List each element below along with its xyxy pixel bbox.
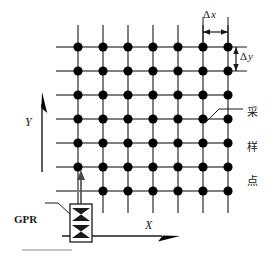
sampling-point [173,138,182,147]
sampling-point [223,138,232,147]
sampling-point [98,42,107,51]
sampling-point [148,114,157,123]
delta-x-label: Δ x [203,9,216,21]
gpr-direction-annotation-line: GPR [14,214,37,226]
sampling-point [123,42,132,51]
sampling-point [198,138,207,147]
sampling-point [223,90,232,99]
sampling-point [148,162,157,171]
sampling-point-annotation-line: 样 [247,142,258,154]
sampling-point [148,42,157,51]
sampling-point [223,114,232,123]
sampling-point [73,162,82,171]
sampling-point [73,42,82,51]
sampling-point [123,90,132,99]
sampling-point-annotation: 采 样 点 [247,84,258,199]
sampling-point [98,66,107,75]
delta-y-label: Δ y [240,51,253,63]
sampling-point [223,186,232,195]
gpr-grid-figure [0,0,279,258]
sampling-point [123,138,132,147]
sampling-point [98,90,107,99]
sampling-point [123,66,132,75]
sampling-point [198,186,207,195]
sampling-point [98,186,107,195]
sampling-point [98,138,107,147]
sampling-point [123,186,132,195]
sampling-point [98,162,107,171]
sampling-point [73,66,82,75]
x-axis-label: X [145,219,152,232]
sampling-point [148,138,157,147]
gpr-direction-annotation: GPR 移动 方向 [14,180,37,258]
y-axis-label: Y [25,116,32,129]
sampling-point [173,162,182,171]
sampling-point [198,42,207,51]
sampling-point [148,66,157,75]
sampling-point [98,114,107,123]
sampling-point [73,90,82,99]
sampling-point [73,114,82,123]
sampling-point [173,114,182,123]
sampling-point [148,90,157,99]
sampling-point [223,162,232,171]
sampling-point [198,90,207,99]
sampling-point [198,66,207,75]
sampling-point-annotation-line: 点 [247,176,258,188]
sampling-point [123,114,132,123]
sampling-point-annotation-line: 采 [247,107,258,119]
gpr-antenna [70,204,92,242]
sampling-point [173,186,182,195]
sampling-point [173,66,182,75]
sampling-point [198,114,207,123]
sampling-point [73,138,82,147]
sampling-point [123,162,132,171]
sampling-point [148,186,157,195]
sampling-point [173,42,182,51]
sampling-point [173,90,182,99]
sampling-point [198,162,207,171]
